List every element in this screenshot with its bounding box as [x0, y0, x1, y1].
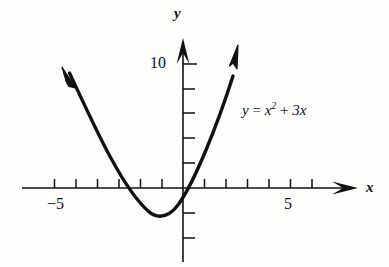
equation-linear-term: 3x — [292, 102, 306, 118]
equation-lhs: y — [242, 102, 249, 118]
coordinate-plane — [0, 0, 389, 267]
graph-figure: y x 10 −5 5 y = x2 + 3x — [0, 0, 389, 267]
equation-annotation: y = x2 + 3x — [242, 101, 306, 118]
y-axis-label: y — [174, 6, 181, 21]
equation-equals-sign: = — [249, 102, 265, 118]
x-tick-label-5: 5 — [284, 196, 292, 212]
y-tick-label-10: 10 — [150, 55, 166, 71]
equation-plus-sign: + — [276, 102, 292, 118]
x-axis-label: x — [366, 180, 374, 195]
parabola-curve — [70, 73, 234, 216]
y-axis-ticks — [183, 64, 197, 238]
x-tick-label-negative-5: −5 — [47, 196, 64, 212]
curve-right-arrowhead — [230, 45, 239, 69]
